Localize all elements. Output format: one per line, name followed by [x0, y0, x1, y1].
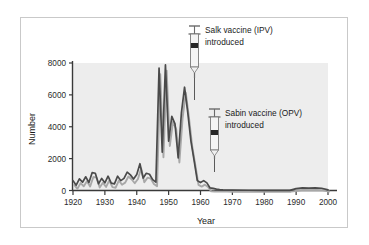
figure-container: 02000400060008000 1920193019401950196019… [0, 0, 369, 245]
y-axis-tick-labels: 02000400060008000 [48, 59, 67, 196]
y-axis-title: Number [27, 113, 37, 145]
x-tick-label: 1930 [96, 198, 115, 207]
x-tick-label: 2000 [319, 198, 338, 207]
x-tick-label: 1950 [160, 198, 179, 207]
sabin-annotation-line2: introduced [225, 120, 264, 130]
polio-incidence-chart: 02000400060008000 1920193019401950196019… [0, 0, 369, 245]
salk-annotation-line2: introduced [205, 37, 244, 47]
sabin-annotation-line1: Sabin vaccine (OPV) [225, 108, 302, 118]
y-tick-label: 2000 [48, 155, 67, 164]
x-axis-tick-labels: 192019301940195019601970198019902000 [64, 198, 338, 207]
x-tick-label: 1990 [287, 198, 306, 207]
y-tick-label: 4000 [48, 123, 67, 132]
x-tick-label: 1980 [255, 198, 274, 207]
salk-annotation-line1: Salk vaccine (IPV) [205, 25, 273, 35]
x-tick-label: 1960 [191, 198, 210, 207]
x-tick-label: 1970 [223, 198, 242, 207]
y-tick-label: 8000 [48, 59, 67, 68]
plot-area-background [73, 63, 328, 190]
y-tick-label: 6000 [48, 91, 67, 100]
x-tick-label: 1920 [64, 198, 83, 207]
x-tick-label: 1940 [128, 198, 147, 207]
y-tick-label: 0 [61, 187, 66, 196]
x-axis-title: Year [197, 216, 215, 226]
